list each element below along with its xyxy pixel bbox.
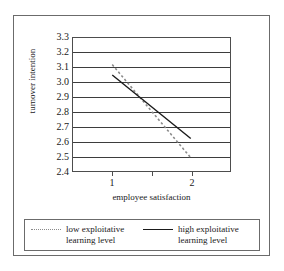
x-tickmark [152, 172, 153, 176]
solid-line-swatch-icon [143, 224, 173, 235]
dotted-line-swatch-icon [31, 224, 61, 235]
plot-area [72, 37, 231, 172]
series-line-low-exploitative [112, 65, 191, 158]
figure-container: turnover intention 3.3 3.2 3.1 3.0 2.9 2… [0, 0, 284, 271]
y-tick-label: 2.6 [40, 137, 69, 147]
x-tick-label: 1 [102, 177, 122, 189]
series-plot-svg [73, 38, 230, 171]
legend-entry-high-exploitative: high exploitative learning level [143, 224, 239, 250]
x-tickmark [192, 172, 193, 176]
legend-label: low exploitative learning level [66, 224, 124, 246]
y-tick-label: 2.9 [40, 92, 69, 102]
x-axis-title: employee satisfaction [72, 192, 231, 202]
y-tick-label: 2.7 [40, 122, 69, 132]
chart-region: turnover intention 3.3 3.2 3.1 3.0 2.9 2… [0, 0, 284, 271]
x-tickmark [112, 172, 113, 176]
y-tick-label: 2.4 [40, 167, 69, 177]
y-axis-tick-labels: 3.3 3.2 3.1 3.0 2.9 2.8 2.7 2.6 2.5 2.4 [40, 37, 69, 172]
legend-label: high exploitative learning level [178, 224, 239, 246]
x-axis-tick-labels: 1 2 [72, 177, 231, 191]
y-tick-label: 3.0 [40, 77, 69, 87]
x-tick-label: 2 [182, 177, 202, 189]
series-line-high-exploitative [112, 75, 191, 139]
y-tick-label: 2.5 [40, 152, 69, 162]
legend-entry-low-exploitative: low exploitative learning level [31, 224, 124, 250]
y-tick-label: 3.1 [40, 62, 69, 72]
y-tick-label: 3.3 [40, 32, 69, 42]
chart-legend: low exploitative learning level high exp… [24, 219, 260, 251]
y-tick-label: 2.8 [40, 107, 69, 117]
y-axis-title: turnover intention [27, 29, 37, 133]
y-tick-label: 3.2 [40, 47, 69, 57]
